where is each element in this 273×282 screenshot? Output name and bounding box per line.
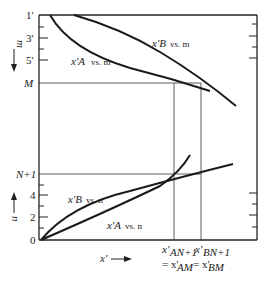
label-xa-vs-m: x'A vs. m (70, 55, 111, 67)
svg-text:x': x' (161, 243, 170, 255)
svg-text:= x': = x' (193, 258, 209, 270)
up-arrow-icon (11, 192, 17, 213)
right-ticks (249, 24, 257, 227)
label-xa-n-plus-1: x' AN+1 = x' AM (161, 243, 197, 273)
curve-xa-vs-m (50, 15, 210, 91)
tick-label-n-plus-1: N+1 (15, 168, 36, 180)
svg-text:vs. n: vs. n (86, 195, 104, 205)
tick-label-1prime: 1' (26, 9, 34, 21)
plot-frame (39, 15, 257, 240)
svg-text:x'A: x'A (70, 55, 85, 67)
label-xa-vs-n: x'A vs. n (106, 219, 143, 231)
svg-text:BM: BM (208, 261, 225, 273)
mccabe-thiele-style-diagram: 1' 3' 5' M m N+1 4 2 0 n x' x'A vs. m x'… (0, 0, 273, 282)
svg-text:vs. m: vs. m (170, 39, 190, 49)
down-arrow-icon (11, 49, 17, 72)
tick-label-5prime: 5' (26, 54, 34, 66)
tick-label-M: M (23, 77, 34, 89)
upper-left-ticks (39, 27, 48, 60)
svg-text:AM: AM (176, 261, 194, 273)
tick-label-4: 4 (30, 189, 36, 201)
svg-text:x': x' (194, 243, 203, 255)
m-axis-label: m (15, 40, 27, 48)
svg-text:BN+1: BN+1 (203, 246, 230, 258)
svg-text:x'B: x'B (151, 37, 166, 49)
n-axis-label: n (10, 216, 22, 222)
tick-label-2: 2 (30, 211, 36, 223)
label-xb-vs-n: x'B vs. n (67, 193, 104, 205)
lower-left-ticks (39, 185, 48, 228)
label-xb-vs-m: x'B vs. m (151, 37, 190, 49)
svg-text:= x': = x' (162, 258, 178, 270)
right-arrow-icon (111, 256, 132, 262)
svg-text:x'B: x'B (67, 193, 82, 205)
svg-text:vs. m: vs. m (91, 57, 111, 67)
x-axis-label: x' (99, 252, 108, 264)
svg-text:x'A: x'A (106, 219, 121, 231)
svg-text:vs. n: vs. n (125, 221, 143, 231)
label-xb-n-plus-1: x' BN+1 = x' BM (193, 243, 230, 273)
tick-label-0: 0 (30, 234, 36, 246)
svg-text:AN+1: AN+1 (169, 246, 197, 258)
